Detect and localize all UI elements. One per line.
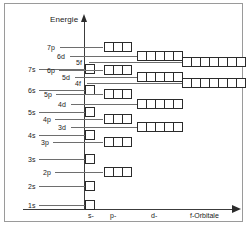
leader-line-2s xyxy=(39,186,85,187)
leader-line-4s xyxy=(39,135,85,136)
orbital-boxes-3p xyxy=(104,137,132,148)
leader-line-5s xyxy=(39,112,85,113)
orbital-boxes-2s xyxy=(85,181,95,192)
energy-level-diagram: Energie s-p-d-f-Orbitale 7p6d5f7s6p5d4f6… xyxy=(0,0,247,226)
orbital-row-3s: 3s xyxy=(5,154,244,165)
orbital-label-2p: 2p xyxy=(43,167,51,178)
leader-line-3d xyxy=(71,127,137,128)
orbital-row-2s: 2s xyxy=(5,181,244,192)
orbital-row-1s: 1s xyxy=(5,200,244,211)
x-axis-label-s: s- xyxy=(88,212,94,219)
orbital-box xyxy=(122,89,132,99)
orbital-label-3p: 3p xyxy=(41,137,49,148)
orbital-box xyxy=(122,137,132,147)
leader-line-1s xyxy=(39,205,85,206)
orbital-boxes-3s xyxy=(85,154,95,165)
orbital-box xyxy=(85,181,95,191)
x-axis-label-d: d- xyxy=(151,212,157,219)
orbital-row-3p: 3p xyxy=(5,137,244,148)
leader-line-6p xyxy=(59,70,103,71)
orbital-box xyxy=(85,200,95,210)
orbital-box xyxy=(85,154,95,164)
orbital-label-2s: 2s xyxy=(28,181,35,192)
orbital-box xyxy=(122,167,132,177)
leader-line-5p xyxy=(56,94,103,95)
x-axis-label-p: p- xyxy=(110,212,116,219)
x-axis-label-f: f-Orbitale xyxy=(190,212,219,219)
leader-line-7p xyxy=(60,47,103,48)
leader-line-4p xyxy=(55,119,103,120)
energy-axis-arrow-icon xyxy=(81,14,87,22)
leader-line-4f xyxy=(87,83,182,84)
diagram-frame: Energie s-p-d-f-Orbitale 7p6d5f7s6p5d4f6… xyxy=(4,3,243,222)
orbital-label-1s: 1s xyxy=(28,200,35,211)
orbital-row-2p: 2p xyxy=(5,167,244,178)
orbital-label-3s: 3s xyxy=(28,154,35,165)
leader-line-2p xyxy=(55,172,103,173)
leader-line-3s xyxy=(39,159,85,160)
y-axis-title: Energie xyxy=(50,15,78,24)
orbital-boxes-1s xyxy=(85,200,95,211)
leader-line-5f xyxy=(89,62,182,63)
leader-line-4d xyxy=(71,104,137,105)
leader-line-3p xyxy=(53,142,103,143)
orbital-boxes-2p xyxy=(104,167,132,178)
